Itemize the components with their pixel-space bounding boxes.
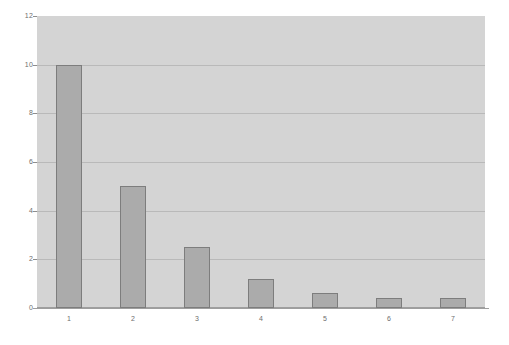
bar — [376, 298, 402, 308]
y-tick-label: 8 — [5, 109, 33, 117]
gridline-y-2 — [37, 259, 485, 260]
gridline-y-8 — [37, 113, 485, 114]
y-tick-label: 6 — [5, 158, 33, 166]
bar-chart-figure: 024681012 1234567 — [0, 0, 509, 345]
gridline-y-6 — [37, 162, 485, 163]
plot-area — [37, 16, 485, 308]
y-tick-label: 0 — [5, 304, 33, 312]
x-tick-label: 5 — [305, 315, 345, 323]
gridline-y-4 — [37, 211, 485, 212]
bar — [56, 65, 82, 308]
y-tick-label: 12 — [5, 12, 33, 20]
x-tick-label: 7 — [433, 315, 473, 323]
x-axis: 1234567 — [37, 309, 485, 333]
y-tick-label: 10 — [5, 61, 33, 69]
bar — [440, 298, 466, 308]
y-tick-label: 4 — [5, 207, 33, 215]
bar — [184, 247, 210, 308]
x-tick-label: 3 — [177, 315, 217, 323]
y-tick-label: 2 — [5, 255, 33, 263]
x-tick-label: 2 — [113, 315, 153, 323]
y-axis: 024681012 — [0, 16, 33, 308]
bar — [120, 186, 146, 308]
bar — [248, 279, 274, 308]
bar — [312, 293, 338, 308]
x-tick-label: 4 — [241, 315, 281, 323]
x-tick-label: 6 — [369, 315, 409, 323]
x-tick-label: 1 — [49, 315, 89, 323]
gridline-y-10 — [37, 65, 485, 66]
